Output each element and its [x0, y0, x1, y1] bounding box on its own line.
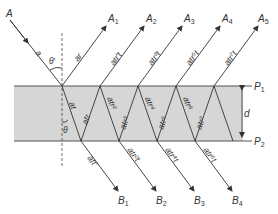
transmitted-ray-4: B4 atr⁶t — [195, 141, 243, 207]
angle-arc-outside — [50, 67, 62, 70]
svg-text:atr′t: atr′t — [108, 50, 125, 68]
svg-text:att′: att′ — [85, 153, 100, 168]
svg-text:atr⁵t: atr⁵t — [184, 48, 202, 67]
angle-inside-label: θ — [63, 125, 68, 135]
svg-text:A4: A4 — [221, 13, 233, 25]
svg-text:B2: B2 — [156, 195, 167, 207]
svg-text:A3: A3 — [183, 13, 195, 25]
angle-outside-label: θ′ — [49, 56, 56, 66]
incident-label: A — [5, 8, 13, 19]
svg-text:ar: ar — [72, 50, 85, 63]
svg-text:atr⁷t: atr⁷t — [222, 48, 240, 67]
svg-text:atr²t: atr²t — [125, 145, 142, 164]
svg-text:A1: A1 — [107, 13, 119, 25]
svg-text:B1: B1 — [118, 195, 129, 207]
plane-p2-label: P2 — [254, 136, 265, 148]
transmitted-ray-3: B3 atr⁴t — [157, 141, 205, 207]
plane-p1-label: P1 — [254, 81, 265, 93]
svg-text:B4: B4 — [232, 195, 243, 207]
svg-text:atr⁶t: atr⁶t — [201, 145, 219, 164]
svg-text:atr⁴t: atr⁴t — [163, 145, 181, 164]
svg-text:A2: A2 — [145, 13, 157, 25]
transmitted-ray-2: B2 atr²t — [119, 141, 167, 207]
svg-text:B3: B3 — [194, 195, 205, 207]
transmitted-ray-1: B1 att′ — [81, 141, 129, 207]
incident-arrow — [10, 20, 28, 43]
svg-text:atr³t: atr³t — [146, 49, 163, 68]
thin-film-interference-diagram: P1 P2 d A a θ′ θ at atr atr² atr³ atr⁴ a… — [0, 0, 278, 214]
reflected-ray-1: A1 ar — [62, 13, 119, 86]
svg-text:A5: A5 — [257, 13, 269, 25]
thickness-label: d — [244, 108, 250, 119]
